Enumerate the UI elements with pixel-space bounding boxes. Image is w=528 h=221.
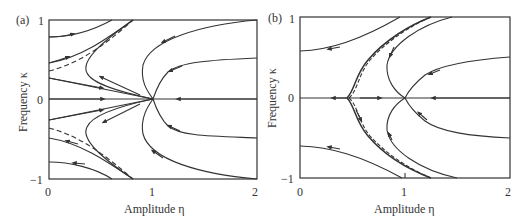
panel-b-ytick-top: 1 — [289, 12, 295, 26]
panel-b-xtick-1: 1 — [401, 185, 407, 199]
panel-b-xtick-0: 0 — [297, 185, 303, 199]
panel-b-xlabel: Amplitude η — [374, 202, 435, 216]
panel-a-trajectories — [49, 20, 257, 179]
panel-a-xtick-0: 0 — [45, 185, 51, 199]
panel-b-ylabel: Frequency κ — [265, 68, 279, 128]
panel-b-trajectories — [300, 17, 510, 178]
figure: (a) 1 0 −1 0 1 2 Amplitude η Frequency κ — [0, 0, 528, 221]
panel-a-ylabel: Frequency κ — [16, 72, 30, 132]
panel-a-xlabel: Amplitude η — [124, 202, 185, 216]
panel-a-label: (a) — [16, 13, 29, 27]
panel-a-ytick-bot: −1 — [30, 173, 43, 187]
panel-b-xtick-2: 2 — [505, 185, 511, 199]
panel-b-ytick-mid: 0 — [288, 91, 294, 105]
panel-a-ytick-mid: 0 — [37, 93, 43, 107]
panel-a: (a) 1 0 −1 0 1 2 Amplitude η Frequency κ — [16, 13, 258, 216]
panel-b-label: (b) — [268, 11, 282, 25]
panel-a-xtick-2: 2 — [252, 185, 258, 199]
panel-b: (b) 1 0 −1 0 1 2 Amplitude η Frequency κ — [265, 11, 511, 216]
panel-a-xtick-1: 1 — [149, 185, 155, 199]
panel-b-ytick-bot: −1 — [281, 172, 294, 186]
panel-a-ytick-top: 1 — [38, 14, 44, 28]
